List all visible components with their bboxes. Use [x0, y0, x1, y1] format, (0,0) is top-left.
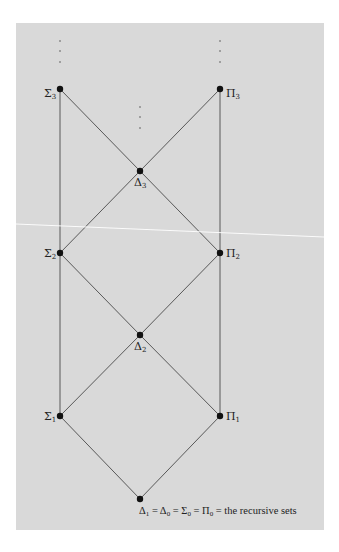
ellipsis-dot — [219, 61, 221, 63]
label-sigma3: Σ3 — [44, 88, 56, 101]
hierarchy-diagram — [0, 0, 339, 552]
node-sigma2 — [57, 250, 63, 256]
label-sigma1: Σ1 — [44, 411, 56, 424]
label-delta2: Δ2 — [134, 341, 146, 354]
edge-sigma2-delta2 — [60, 253, 140, 335]
label-pi2: Π2 — [226, 248, 240, 261]
ellipsis-dot — [219, 40, 221, 42]
ellipsis-dot — [59, 50, 61, 52]
node-base — [137, 496, 143, 502]
node-delta2 — [137, 332, 143, 338]
label-sigma2: Σ2 — [44, 248, 56, 261]
node-delta3 — [137, 168, 143, 174]
nodes — [57, 86, 223, 502]
ellipsis-dot — [59, 40, 61, 42]
label-pi3: Π3 — [226, 88, 240, 101]
ellipsis-dot — [139, 116, 141, 118]
edge-pi1-base — [140, 416, 220, 499]
edge-pi2-delta2 — [140, 253, 220, 335]
edge-delta2-pi1 — [140, 335, 220, 416]
scan-artifact-line — [16, 224, 324, 237]
label-delta3: Δ3 — [134, 177, 146, 190]
node-sigma1 — [57, 413, 63, 419]
node-pi3 — [217, 86, 223, 92]
ellipsis-dot — [219, 50, 221, 52]
edge-delta2-sigma1 — [60, 335, 140, 416]
edge-sigma3-delta3 — [60, 89, 140, 171]
node-pi2 — [217, 250, 223, 256]
edges — [60, 89, 220, 499]
continuation-dots — [59, 40, 221, 129]
edge-delta3-pi2 — [140, 171, 220, 253]
edge-delta3-sigma2 — [60, 171, 140, 253]
ellipsis-dot — [59, 61, 61, 63]
base-caption: Δ1 = Δ0 = Σ0 = Π0 = the recursive sets — [139, 506, 297, 518]
node-sigma3 — [57, 86, 63, 92]
edge-pi3-delta3 — [140, 89, 220, 171]
ellipsis-dot — [139, 106, 141, 108]
ellipsis-dot — [139, 127, 141, 129]
node-pi1 — [217, 413, 223, 419]
label-pi1: Π1 — [226, 411, 240, 424]
edge-sigma1-base — [60, 416, 140, 499]
